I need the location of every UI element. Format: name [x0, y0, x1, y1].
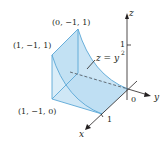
y-axis-label: y: [153, 92, 160, 102]
y-arrow-icon: [144, 92, 151, 97]
x-tick: [101, 114, 103, 117]
x-tick-label: 1: [107, 115, 112, 124]
surface-equation: z = y: [95, 53, 120, 63]
x-axis-label: x: [79, 129, 84, 139]
vertex-label-upper-left: (1, −1, 1): [13, 41, 51, 50]
z-tick-label: 1: [120, 40, 125, 49]
z-axis-label: z: [128, 8, 134, 18]
surface-exponent: 2: [121, 49, 125, 56]
origin-label: 0: [131, 95, 136, 104]
vertex-label-lower-left: (1, −1, 0): [18, 107, 56, 116]
solid-diagram: (0, −1, 1) (1, −1, 1) (1, −1, 0) z = y 2…: [0, 0, 167, 142]
vertex-label-top: (0, −1, 1): [52, 18, 90, 27]
